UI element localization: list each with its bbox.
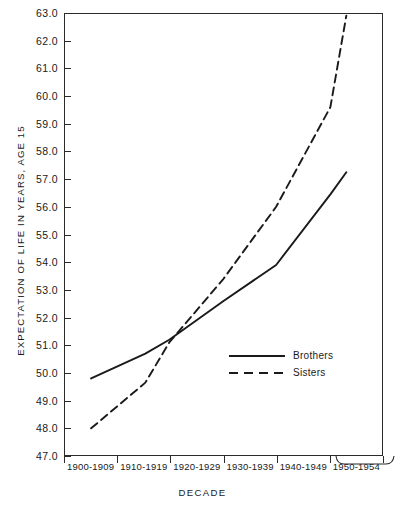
x-axis-title: DECADE (0, 487, 405, 498)
y-axis-ticks (0, 0, 405, 514)
y-axis-tick (64, 401, 71, 402)
x-axis-tick-label: 1910-1919 (120, 461, 167, 472)
y-axis-tick (64, 96, 71, 97)
y-axis-tick (64, 151, 71, 152)
y-axis-tick (64, 124, 71, 125)
y-axis-tick (64, 428, 71, 429)
y-axis-tick (64, 68, 71, 69)
chart-legend: BrothersSisters (228, 347, 348, 381)
last-category-bracket-icon (334, 455, 396, 466)
x-axis-tick-label: 1940-1949 (280, 461, 327, 472)
legend-swatch-dashed-icon (228, 368, 286, 378)
y-axis-tick (64, 456, 71, 457)
legend-item-sisters[interactable]: Sisters (228, 364, 348, 381)
y-axis-tick (64, 13, 71, 14)
y-axis-tick (64, 318, 71, 319)
x-axis-tick-label: 1920-1929 (173, 461, 220, 472)
x-axis-tick-label: 1900-1909 (67, 461, 114, 472)
y-axis-tick (64, 290, 71, 291)
y-axis-tick (64, 41, 71, 42)
x-axis-tick-label: 1930-1939 (226, 461, 273, 472)
legend-item-brothers[interactable]: Brothers (228, 347, 348, 364)
y-axis-tick (64, 235, 71, 236)
legend-swatch-solid-icon (228, 351, 286, 361)
y-axis-tick (64, 207, 71, 208)
y-axis-tick (64, 179, 71, 180)
y-axis-tick (64, 262, 71, 263)
legend-label: Brothers (293, 350, 333, 361)
life-expectancy-line-chart: EXPECTATION OF LIFE IN YEARS, AGE 15 63.… (0, 0, 405, 514)
y-axis-tick (64, 373, 71, 374)
y-axis-tick (64, 345, 71, 346)
legend-label: Sisters (293, 367, 326, 378)
